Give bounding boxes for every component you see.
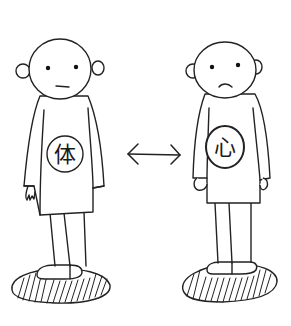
right-eye xyxy=(74,65,78,69)
right-figure-left-hand xyxy=(194,178,207,190)
right-head xyxy=(186,42,262,98)
left-hand xyxy=(26,186,35,200)
kanji-body-label: 体 xyxy=(54,142,76,167)
right-legs xyxy=(215,203,251,263)
illustration-canvas: 体 xyxy=(0,0,291,326)
mouth-neutral xyxy=(56,86,69,87)
left-eye xyxy=(46,66,50,70)
double-headed-arrow-icon xyxy=(128,144,180,164)
left-legs xyxy=(50,212,86,266)
right-kanji-badge: 心 xyxy=(206,126,244,168)
left-feet xyxy=(37,265,82,279)
left-eye xyxy=(210,65,214,69)
left-figure: 体 xyxy=(12,39,110,303)
kanji-mind-label: 心 xyxy=(214,135,236,160)
right-figure: 心 xyxy=(183,42,277,302)
right-eye xyxy=(236,63,240,67)
left-kanji-badge: 体 xyxy=(47,136,83,172)
left-head xyxy=(16,39,104,99)
